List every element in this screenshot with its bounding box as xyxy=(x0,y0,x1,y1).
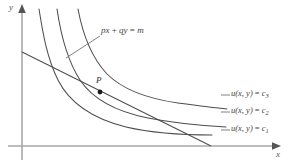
curve-label-c1-c: c xyxy=(262,123,266,133)
budget-label-m: m xyxy=(137,25,144,35)
figure-canvas xyxy=(0,0,295,167)
budget-line-label: px + qy = m xyxy=(101,26,144,35)
curve-label-c1-equals: = xyxy=(253,123,262,133)
budget-label-qy: qy xyxy=(119,25,128,35)
curve-label-c1-fn: u(x, y) xyxy=(231,123,253,133)
curve-label-c3-equals: = xyxy=(253,88,262,98)
budget-label-px: px xyxy=(101,25,110,35)
point-p-marker xyxy=(98,90,103,95)
curve-label-c1: u(x, y) = c1 xyxy=(231,124,269,133)
axes-group xyxy=(8,4,281,160)
curve-label-c2: u(x, y) = c2 xyxy=(231,106,269,115)
budget-line xyxy=(22,52,211,146)
budget-line-group xyxy=(22,52,211,146)
curve-label-c2-equals: = xyxy=(253,105,262,115)
point-p-label: P xyxy=(96,76,102,85)
tangency-point-group xyxy=(98,90,103,95)
curve-label-c3-c: c xyxy=(262,88,266,98)
curve-label-c2-c: c xyxy=(262,105,266,115)
curve-label-c1-sub: 1 xyxy=(266,127,269,134)
budget-label-equals: = xyxy=(128,25,138,35)
curve-label-c2-sub: 2 xyxy=(266,109,269,116)
x-axis-label: x xyxy=(276,150,280,159)
curve-label-c2-fn: u(x, y) xyxy=(231,105,253,115)
curve-label-c3-fn: u(x, y) xyxy=(231,88,253,98)
y-axis-label: y xyxy=(9,3,13,12)
indifference-curve-figure: y x P px + qy = m u(x, y) = c3 u(x, y) =… xyxy=(0,0,295,167)
y-axis-arrowhead xyxy=(18,4,26,13)
leader-line-budget xyxy=(66,36,100,58)
curve-label-c3: u(x, y) = c3 xyxy=(231,89,269,98)
curve-label-c3-sub: 3 xyxy=(266,92,269,99)
budget-label-plus: + xyxy=(110,25,120,35)
